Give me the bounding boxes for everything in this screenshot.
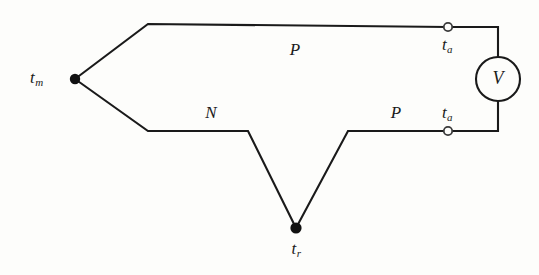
reference-junction-dot (290, 222, 301, 233)
diagram-canvas: tm tr ta ta P N P V (0, 0, 539, 275)
lower-terminal-label-sub: a (447, 111, 453, 123)
circuit-schematic (0, 0, 539, 275)
lower-wire-to-meter-path (448, 101, 498, 131)
upper-terminal-circle[interactable] (444, 23, 452, 31)
upper-terminal-label-sub: a (447, 43, 453, 55)
reference-junction-label-sub: r (297, 247, 301, 259)
upper-terminal-label: ta (442, 35, 452, 55)
lower-terminal-label: ta (442, 103, 452, 123)
measuring-junction-label-sub: m (35, 76, 43, 88)
lower-right-wire-label: P (391, 103, 402, 123)
lower-left-wire-label: N (205, 103, 217, 123)
measuring-junction-label: tm (30, 68, 43, 88)
voltmeter-label: V (493, 68, 504, 89)
lower-terminal-circle[interactable] (444, 127, 452, 135)
lower-wire-p-path (296, 131, 448, 228)
reference-junction-label: tr (291, 239, 300, 259)
upper-wire-to-meter-path (448, 27, 498, 57)
measuring-junction-dot (70, 74, 80, 84)
upper-wire-label: P (290, 40, 301, 60)
upper-wire-path (75, 24, 448, 79)
lower-wire-n-path (75, 79, 296, 228)
